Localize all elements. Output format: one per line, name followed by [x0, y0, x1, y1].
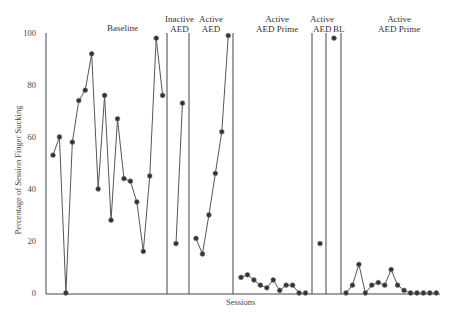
phase-label-active-aed-prime-2: ActiveAED Prime [378, 14, 420, 34]
phase-label-line1: Active [310, 14, 334, 24]
data-point [239, 275, 244, 280]
data-point [141, 249, 146, 254]
data-point [51, 153, 56, 158]
data-point [102, 93, 107, 98]
data-point [76, 98, 81, 103]
data-point [318, 241, 323, 246]
series-line [196, 36, 228, 254]
data-point [369, 283, 374, 288]
data-point [134, 200, 139, 205]
line-chart [0, 0, 452, 318]
phase-label-line2: AED Prime [256, 24, 298, 34]
data-point [332, 36, 337, 41]
data-point [122, 176, 127, 181]
phase-label-inactive-aed: InactiveAED [165, 14, 194, 34]
data-point [207, 213, 212, 218]
data-point [408, 291, 413, 296]
data-point [271, 278, 276, 283]
data-point [57, 135, 62, 140]
data-point [174, 241, 179, 246]
phase-label-text: Baseline [107, 23, 138, 33]
data-point [264, 285, 269, 290]
data-point [389, 267, 394, 272]
data-point [109, 218, 114, 223]
data-point [83, 88, 88, 93]
y-tick-80: 80 [14, 80, 36, 90]
data-point [382, 283, 387, 288]
data-point [154, 36, 159, 41]
data-point [213, 171, 218, 176]
data-point [147, 174, 152, 179]
data-point [252, 278, 257, 283]
y-axis-title: Percentage of Session Finger Sucking [13, 90, 23, 250]
chart-area: 100 80 60 40 20 0 Percentage of Session … [0, 0, 452, 318]
y-tick-0: 0 [14, 288, 36, 298]
data-point [434, 291, 439, 296]
data-point [357, 262, 362, 267]
data-point [96, 187, 101, 192]
data-point [258, 283, 263, 288]
phase-label-line2: AED [310, 24, 334, 34]
data-point [363, 291, 368, 296]
phase-label-line2: AED [165, 24, 194, 34]
data-point [284, 283, 289, 288]
data-point [350, 283, 355, 288]
data-point [194, 236, 199, 241]
phase-label-line1: Active [378, 14, 420, 24]
data-point [415, 291, 420, 296]
data-point [160, 93, 165, 98]
data-point [395, 283, 400, 288]
data-point [303, 291, 308, 296]
data-point [290, 283, 295, 288]
phase-label-active-aed-2: ActiveAED [310, 14, 334, 34]
phase-label-line2: AED [199, 24, 223, 34]
phase-label-active-aed-prime-1: ActiveAED Prime [256, 14, 298, 34]
data-point [427, 291, 432, 296]
data-point [402, 288, 407, 293]
data-point [421, 291, 426, 296]
data-point [219, 129, 224, 134]
data-point [180, 101, 185, 106]
data-point [245, 272, 250, 277]
data-point [70, 140, 75, 145]
data-point [277, 288, 282, 293]
data-point [128, 179, 133, 184]
data-point [200, 252, 205, 257]
phase-label-active-aed: ActiveAED [199, 14, 223, 34]
data-point [115, 116, 120, 121]
data-point [89, 51, 94, 56]
series-line [176, 103, 182, 243]
data-point [344, 291, 349, 296]
phase-label-line1: Active [256, 14, 298, 24]
phase-label-text: BL [333, 24, 345, 34]
data-point [297, 291, 302, 296]
data-point [226, 33, 231, 38]
phase-label-line2: AED Prime [378, 24, 420, 34]
phase-label-baseline: Baseline [107, 23, 138, 33]
x-axis-title: Sessions [226, 297, 255, 307]
data-point [64, 291, 69, 296]
phase-label-bl: BL [333, 24, 345, 34]
phase-label-line1: Active [199, 14, 223, 24]
data-point [376, 280, 381, 285]
y-tick-100: 100 [14, 28, 36, 38]
series-line [53, 38, 163, 293]
phase-label-line1: Inactive [165, 14, 194, 24]
